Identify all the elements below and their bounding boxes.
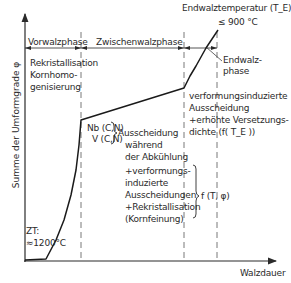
- x-axis-label: Walzdauer: [240, 268, 285, 279]
- endwalz-leader: [206, 47, 222, 61]
- start-temp-line1: ZT:: [26, 226, 39, 237]
- phase-label-vorwalz: Vorwalzphase: [28, 37, 88, 48]
- vorwalz-note-1: Rekristallisation: [30, 58, 98, 69]
- endwalz-note-3: +erhöhte Versetzungs-: [189, 115, 289, 126]
- zwischen-note-4: +verformungs-: [125, 166, 191, 177]
- zwischen-note-3: der Abkühlung: [125, 152, 188, 163]
- start-temp-line2: ≈1200°C: [26, 238, 66, 249]
- zwischen-note-1: Ausscheidung: [118, 128, 178, 139]
- end-temp-line2: ≤ 900 °C: [218, 17, 258, 28]
- function-label: f (T, φ): [201, 191, 230, 202]
- zwischen-note-7: +Rekristallisation: [125, 202, 200, 213]
- end-temp-line1: Endwalztemperatur (T_E):: [182, 3, 291, 14]
- endwalz-label-line2: phase: [223, 66, 249, 77]
- endwalz-label-line1: Endwalz-: [223, 55, 262, 66]
- zwischen-note-2: während: [125, 140, 163, 151]
- endwalz-note-2: Ausscheidung: [189, 103, 249, 114]
- zwischen-note-8: (Kornfeinung): [125, 214, 184, 225]
- vorwalz-note-3: genisierung: [30, 82, 81, 93]
- endwalz-note-1: verformungsinduzierte: [189, 91, 287, 102]
- y-axis-label: Summe der Umformgrade φ: [11, 55, 21, 195]
- vorwalz-note-2: Kornhomo-: [30, 70, 77, 81]
- phase-label-zwischenwalz: Zwischenwalzphase: [96, 37, 182, 48]
- zwischen-note-5: induzierte: [125, 178, 168, 189]
- endwalz-note-4: dichte (f( T_E )): [189, 127, 255, 138]
- zwischen-note-6: Ausscheidungen: [125, 190, 196, 201]
